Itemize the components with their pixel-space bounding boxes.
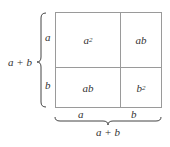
cell-ab-bottom: ab (56, 68, 120, 107)
bottom-label-a: a (78, 109, 84, 120)
bottom-brace-icon (55, 117, 161, 125)
left-brace-icon (37, 13, 46, 107)
cell-ab-top: ab (121, 13, 161, 67)
left-label-a: a (45, 32, 51, 43)
cell-a-squared: a2 (56, 13, 120, 67)
bottom-label-b: b (131, 109, 137, 120)
cell-a-squared-exp: 2 (89, 36, 93, 44)
left-label-b: b (45, 80, 51, 91)
bottom-label-total: a + b (96, 127, 120, 138)
cell-b-squared: b2 (121, 68, 161, 107)
left-label-total: a + b (8, 57, 32, 68)
cell-b-squared-exp: 2 (142, 84, 146, 92)
